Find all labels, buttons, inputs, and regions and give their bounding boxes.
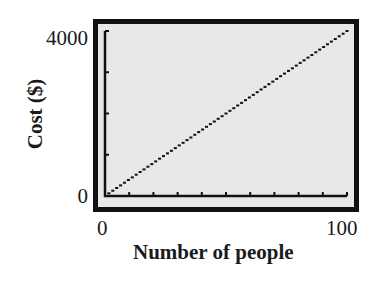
data-point bbox=[299, 62, 302, 64]
y-axis-title: Cost ($) bbox=[25, 79, 46, 150]
data-point bbox=[127, 179, 130, 181]
data-point bbox=[279, 75, 282, 77]
data-point bbox=[248, 97, 251, 99]
data-point bbox=[139, 171, 142, 173]
data-point bbox=[322, 46, 325, 48]
data-point bbox=[221, 115, 224, 117]
data-point bbox=[158, 158, 161, 160]
data-point bbox=[310, 54, 313, 56]
data-point bbox=[119, 184, 122, 186]
y-tick-label-min: 0 bbox=[78, 186, 89, 207]
data-point bbox=[154, 160, 157, 162]
data-point bbox=[201, 129, 204, 131]
data-point bbox=[111, 190, 114, 192]
data-point bbox=[162, 155, 165, 157]
y-tick-label-max: 4000 bbox=[46, 28, 88, 49]
data-point bbox=[170, 150, 173, 152]
data-point bbox=[303, 59, 306, 61]
data-series-cost bbox=[107, 30, 348, 194]
data-point bbox=[217, 118, 220, 120]
data-point bbox=[123, 182, 126, 184]
chart-figure: 4000 0 0 100 Number of people Cost ($) bbox=[0, 0, 377, 283]
data-point bbox=[267, 83, 270, 85]
data-point bbox=[334, 38, 337, 40]
data-point bbox=[338, 35, 341, 37]
data-point bbox=[307, 57, 310, 59]
data-point bbox=[295, 65, 298, 67]
data-point bbox=[213, 121, 216, 123]
data-point bbox=[166, 152, 169, 154]
data-point bbox=[225, 113, 228, 115]
data-point bbox=[135, 174, 138, 176]
x-axis-title: Number of people bbox=[133, 242, 294, 263]
data-point bbox=[143, 168, 146, 170]
data-point bbox=[115, 187, 118, 189]
data-point bbox=[131, 176, 134, 178]
data-point bbox=[346, 30, 349, 32]
data-point bbox=[228, 110, 231, 112]
data-point bbox=[205, 126, 208, 128]
data-point bbox=[252, 94, 255, 96]
data-point bbox=[186, 139, 189, 141]
data-point bbox=[178, 144, 181, 146]
data-point bbox=[146, 166, 149, 168]
data-point bbox=[197, 131, 200, 133]
data-point bbox=[283, 73, 286, 75]
data-point bbox=[150, 163, 153, 165]
data-point bbox=[342, 33, 345, 35]
data-point bbox=[189, 137, 192, 139]
data-point bbox=[330, 41, 333, 43]
data-point bbox=[271, 81, 274, 83]
data-point bbox=[236, 105, 239, 107]
data-point bbox=[244, 99, 247, 101]
data-point bbox=[326, 43, 329, 45]
data-point bbox=[193, 134, 196, 136]
data-point bbox=[174, 147, 177, 149]
data-point bbox=[240, 102, 243, 104]
data-point bbox=[275, 78, 278, 80]
data-point bbox=[264, 86, 267, 88]
x-tick-label-min: 0 bbox=[97, 218, 108, 239]
data-point bbox=[291, 67, 294, 69]
data-point bbox=[287, 70, 290, 72]
x-tick-label-max: 100 bbox=[326, 218, 358, 239]
data-point bbox=[318, 49, 321, 51]
data-point bbox=[256, 91, 259, 93]
data-point bbox=[209, 123, 212, 125]
data-point bbox=[232, 107, 235, 109]
data-point bbox=[260, 89, 263, 91]
data-point bbox=[182, 142, 185, 144]
data-point bbox=[107, 192, 110, 194]
data-point bbox=[314, 51, 317, 53]
